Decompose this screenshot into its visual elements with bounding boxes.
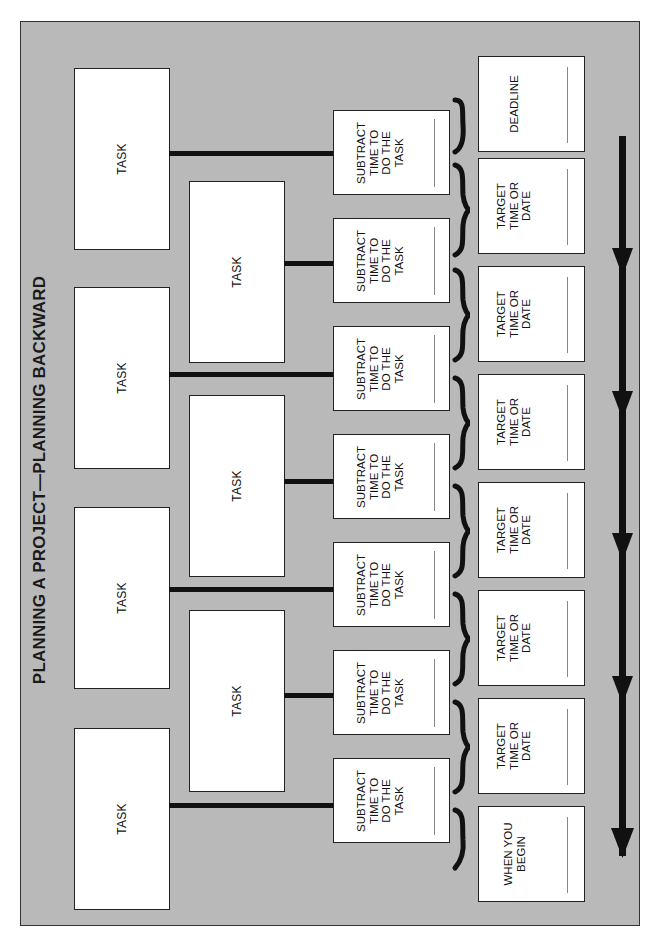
task-box-2: TASK: [189, 181, 285, 363]
milestone-label: TARGET TIME OR DATE: [495, 290, 533, 338]
task-label: TASK: [115, 582, 129, 614]
write-in-line: [434, 335, 435, 403]
task-label: TASK: [115, 362, 129, 394]
task-box-3: TASK: [74, 287, 170, 469]
connector-line: [169, 587, 333, 592]
task-box-5: TASK: [74, 507, 170, 689]
write-in-line: [434, 551, 435, 619]
subtract-box-6: SUBTRACT TIME TO DO THE TASK: [333, 650, 450, 735]
write-in-line: [567, 709, 568, 785]
subtract-box-3: SUBTRACT TIME TO DO THE TASK: [333, 326, 450, 411]
write-in-line: [434, 767, 435, 835]
milestone-target-2: TARGET TIME OR DATE: [478, 266, 585, 362]
write-in-line: [567, 277, 568, 353]
milestone-label: WHEN YOU BEGIN: [501, 822, 526, 885]
subtract-label: SUBTRACT TIME TO DO THE TASK: [355, 446, 405, 508]
write-in-line: [434, 443, 435, 511]
task-label: TASK: [230, 470, 244, 502]
milestone-label: DEADLINE: [507, 75, 520, 133]
connector-line: [284, 261, 333, 266]
task-label: TASK: [230, 685, 244, 717]
task-box-6: TASK: [189, 610, 285, 792]
write-in-line: [434, 119, 435, 187]
milestone-label: TARGET TIME OR DATE: [495, 506, 533, 554]
milestone-label: TARGET TIME OR DATE: [495, 614, 533, 662]
milestone-label: TARGET TIME OR DATE: [495, 722, 533, 770]
subtract-box-4: SUBTRACT TIME TO DO THE TASK: [333, 434, 450, 519]
task-label: TASK: [115, 143, 129, 175]
subtract-box-7: SUBTRACT TIME TO DO THE TASK: [333, 758, 450, 843]
milestone-target-3: TARGET TIME OR DATE: [478, 374, 585, 470]
write-in-line: [567, 493, 568, 569]
milestone-begin: WHEN YOU BEGIN: [478, 806, 585, 902]
task-box-1: TASK: [74, 68, 170, 250]
subtract-box-5: SUBTRACT TIME TO DO THE TASK: [333, 542, 450, 627]
subtract-label: SUBTRACT TIME TO DO THE TASK: [355, 770, 405, 832]
subtract-label: SUBTRACT TIME TO DO THE TASK: [355, 122, 405, 184]
connector-line: [284, 693, 333, 698]
write-in-line: [567, 67, 568, 143]
diagram-title: PLANNING A PROJECT—PLANNING BACKWARD: [30, 276, 50, 684]
milestone-label: TARGET TIME OR DATE: [495, 182, 533, 230]
write-in-line: [567, 817, 568, 893]
task-label: TASK: [115, 803, 129, 835]
write-in-line: [567, 601, 568, 677]
subtract-box-1: SUBTRACT TIME TO DO THE TASK: [333, 110, 450, 195]
milestone-label: TARGET TIME OR DATE: [495, 398, 533, 446]
write-in-line: [567, 385, 568, 461]
subtract-label: SUBTRACT TIME TO DO THE TASK: [355, 230, 405, 292]
milestone-deadline: DEADLINE: [478, 56, 585, 152]
write-in-line: [567, 169, 568, 245]
milestone-target-6: TARGET TIME OR DATE: [478, 698, 585, 794]
write-in-line: [434, 227, 435, 295]
subtract-label: SUBTRACT TIME TO DO THE TASK: [355, 338, 405, 400]
connector-line: [169, 803, 333, 808]
connector-line: [169, 151, 333, 156]
write-in-line: [434, 659, 435, 727]
subtract-label: SUBTRACT TIME TO DO THE TASK: [355, 662, 405, 724]
task-box-7: TASK: [74, 728, 170, 910]
milestone-target-5: TARGET TIME OR DATE: [478, 590, 585, 686]
task-box-4: TASK: [189, 395, 285, 577]
subtract-box-2: SUBTRACT TIME TO DO THE TASK: [333, 218, 450, 303]
milestone-target-1: TARGET TIME OR DATE: [478, 158, 585, 254]
subtract-label: SUBTRACT TIME TO DO THE TASK: [355, 554, 405, 616]
connector-line: [169, 372, 333, 377]
connector-line: [284, 479, 333, 484]
task-label: TASK: [230, 256, 244, 288]
milestone-target-4: TARGET TIME OR DATE: [478, 482, 585, 578]
